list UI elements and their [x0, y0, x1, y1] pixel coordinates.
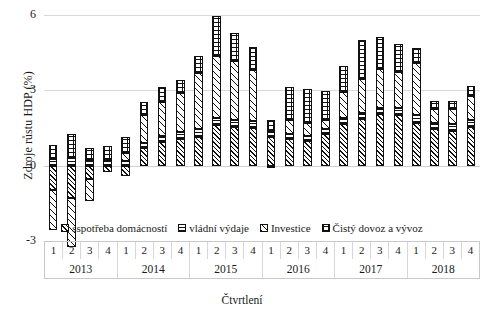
- bar-segment: [394, 115, 403, 165]
- bar-segment: [158, 87, 167, 102]
- bar-stack[interactable]: [226, 15, 244, 241]
- x-axis: 123412341234123412341234 201320142015201…: [44, 241, 480, 279]
- bar-segment: [176, 80, 185, 94]
- x-tick-quarter: 4: [172, 242, 190, 259]
- bar-segment: [140, 115, 149, 143]
- bar-stack[interactable]: [298, 15, 316, 241]
- bar-segment: [103, 160, 112, 162]
- bar-segment: [249, 121, 258, 128]
- bar-segment: [285, 139, 294, 165]
- x-tick-year: 2013: [44, 259, 118, 279]
- bar-segment: [267, 166, 276, 168]
- bar-stack[interactable]: [189, 15, 207, 241]
- bar-stack[interactable]: [407, 15, 425, 241]
- legend-item[interactable]: sspotřeba domácností: [61, 222, 167, 234]
- bar-segment: [267, 120, 276, 131]
- bar-stack[interactable]: [353, 15, 371, 241]
- bar-stack[interactable]: [135, 15, 153, 241]
- bar-stack-inner: [230, 15, 239, 241]
- legend-item[interactable]: vládní výdaje: [178, 222, 249, 234]
- bar-stack[interactable]: [171, 15, 189, 241]
- bar-segment: [212, 118, 221, 126]
- bar-segment: [394, 72, 403, 108]
- bar-segment: [212, 56, 221, 118]
- bar-stack-inner: [394, 15, 403, 241]
- bar-segment: [85, 160, 94, 166]
- bar-segment: [49, 166, 58, 190]
- bar-stack-inner: [467, 15, 476, 241]
- bar-segment: [430, 109, 439, 123]
- bar-stack[interactable]: [244, 15, 262, 241]
- bar-stack[interactable]: [444, 15, 462, 241]
- bar-stack[interactable]: [153, 15, 171, 241]
- bar-segment: [467, 96, 476, 120]
- bar-stack[interactable]: [371, 15, 389, 241]
- bar-segment: [194, 73, 203, 130]
- bar-segment: [230, 120, 239, 127]
- bar-stack[interactable]: [99, 15, 117, 241]
- bar-series-group: [44, 15, 480, 241]
- legend-item[interactable]: Čistý dovoz a vývoz: [322, 222, 423, 234]
- bar-stack[interactable]: [44, 15, 62, 241]
- bar-segment: [430, 129, 439, 165]
- bar-stack[interactable]: [208, 15, 226, 241]
- x-tick-quarter: 1: [263, 242, 281, 259]
- x-tick-year: 2015: [190, 259, 263, 279]
- bar-segment: [358, 119, 367, 165]
- bar-segment: [467, 120, 476, 127]
- bar-segment: [412, 48, 421, 63]
- bar-stack-inner: [430, 15, 439, 241]
- x-tick-quarter: 4: [389, 242, 407, 259]
- bar-segment: [67, 134, 76, 158]
- bar-stack-inner: [249, 15, 258, 241]
- bar-segment: [85, 148, 94, 161]
- bar-segment: [412, 63, 421, 116]
- bar-stack[interactable]: [117, 15, 135, 241]
- bar-segment: [140, 102, 149, 115]
- bar-stack[interactable]: [62, 15, 80, 241]
- bar-stack[interactable]: [426, 15, 444, 241]
- bar-stack[interactable]: [262, 15, 280, 241]
- bar-segment: [448, 109, 457, 124]
- bar-stack-inner: [140, 15, 149, 241]
- x-tick-quarter: 3: [226, 242, 244, 259]
- legend-swatch-icon: [260, 224, 268, 232]
- bar-segment: [285, 87, 294, 121]
- bar-segment: [85, 166, 94, 180]
- bar-stack[interactable]: [317, 15, 335, 241]
- bar-stack[interactable]: [80, 15, 98, 241]
- bar-stack-inner: [339, 15, 348, 241]
- x-axis-quarter-row: 123412341234123412341234: [44, 241, 480, 259]
- x-tick-quarter: 4: [99, 242, 117, 259]
- bar-segment: [267, 137, 276, 166]
- bar-segment: [249, 47, 258, 70]
- x-tick-quarter: 3: [371, 242, 389, 259]
- bar-segment: [103, 166, 112, 172]
- x-tick-quarter: 1: [190, 242, 208, 259]
- bar-stack[interactable]: [389, 15, 407, 241]
- x-tick-quarter: 1: [335, 242, 353, 259]
- bar-segment: [321, 134, 330, 165]
- legend-item[interactable]: Investice: [260, 222, 311, 234]
- bar-stack-inner: [321, 15, 330, 241]
- bar-segment: [412, 115, 421, 123]
- bar-segment: [267, 131, 276, 137]
- bar-stack[interactable]: [280, 15, 298, 241]
- bar-stack-inner: [267, 15, 276, 241]
- bar-stack[interactable]: [462, 15, 480, 241]
- bar-segment: [194, 56, 203, 72]
- x-tick-year: 2018: [408, 259, 481, 279]
- bar-stack[interactable]: [335, 15, 353, 241]
- x-tick-year: 2017: [335, 259, 408, 279]
- chart-legend: sspotřeba domácnostívládní výdajeInvesti…: [0, 222, 484, 234]
- legend-label: vládní výdaje: [189, 222, 249, 234]
- bar-segment: [49, 145, 58, 159]
- x-tick-quarter: 2: [281, 242, 299, 259]
- x-tick-quarter: 3: [299, 242, 317, 259]
- bar-segment: [285, 120, 294, 134]
- bar-segment: [176, 93, 185, 132]
- y-tick-label-3: 3: [0, 83, 36, 95]
- x-tick-quarter: 1: [118, 242, 136, 259]
- bar-segment: [358, 113, 367, 119]
- bar-segment: [194, 137, 203, 166]
